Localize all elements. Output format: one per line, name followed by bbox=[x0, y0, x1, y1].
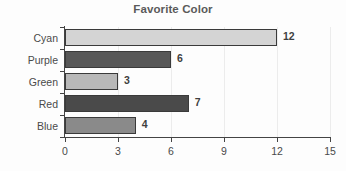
y-axis-category-row: Cyan bbox=[0, 27, 58, 49]
x-axis-tick-label: 15 bbox=[318, 145, 342, 157]
bar[interactable] bbox=[65, 73, 118, 90]
chart-title: Favorite Color bbox=[0, 3, 346, 15]
y-axis-category-row: Blue bbox=[0, 115, 58, 137]
bar-chart: Favorite Color 03691215 CyanPurpleGreenR… bbox=[0, 0, 346, 171]
x-axis-tick bbox=[224, 137, 225, 142]
y-axis-category-label: Green bbox=[0, 71, 58, 93]
x-axis-tick bbox=[118, 137, 119, 142]
bar-band: 7 bbox=[65, 93, 330, 115]
y-axis-category-label: Blue bbox=[0, 115, 58, 137]
x-axis-tick-label: 9 bbox=[212, 145, 236, 157]
bar-band: 3 bbox=[65, 71, 330, 93]
x-axis-tick bbox=[277, 137, 278, 142]
y-axis-category-row: Red bbox=[0, 93, 58, 115]
bar-value-label: 4 bbox=[142, 118, 148, 130]
bar-value-label: 12 bbox=[283, 30, 295, 42]
bar[interactable] bbox=[65, 117, 136, 134]
x-axis-tick bbox=[65, 137, 66, 142]
x-axis-tick-label: 12 bbox=[265, 145, 289, 157]
bar[interactable] bbox=[65, 51, 171, 68]
x-axis-tick-label: 6 bbox=[159, 145, 183, 157]
bar-band: 12 bbox=[65, 27, 330, 49]
x-axis-tick-label: 3 bbox=[106, 145, 130, 157]
bar-value-label: 3 bbox=[124, 74, 130, 86]
bar-value-label: 6 bbox=[177, 52, 183, 64]
y-axis-category-row: Purple bbox=[0, 49, 58, 71]
bar-band: 4 bbox=[65, 115, 330, 137]
y-axis-category-label: Red bbox=[0, 93, 58, 115]
x-axis-tick bbox=[171, 137, 172, 142]
y-axis-category-label: Cyan bbox=[0, 27, 58, 49]
x-axis-tick-label: 0 bbox=[53, 145, 77, 157]
bar[interactable] bbox=[65, 29, 277, 46]
plot-area: 126374 bbox=[65, 27, 330, 137]
bar-band: 6 bbox=[65, 49, 330, 71]
x-axis-line bbox=[64, 137, 331, 138]
y-axis-category-label: Purple bbox=[0, 49, 58, 71]
gridline bbox=[330, 27, 331, 137]
y-axis-category-row: Green bbox=[0, 71, 58, 93]
bar-value-label: 7 bbox=[195, 96, 201, 108]
bar[interactable] bbox=[65, 95, 189, 112]
y-axis-category-labels: CyanPurpleGreenRedBlue bbox=[0, 27, 60, 137]
x-axis-tick bbox=[330, 137, 331, 142]
